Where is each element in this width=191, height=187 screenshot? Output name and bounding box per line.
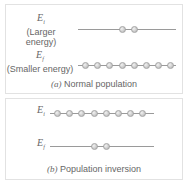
particle xyxy=(106,62,113,69)
lower-energy-level-line xyxy=(50,146,154,147)
particle xyxy=(155,62,162,69)
lower-level-label: Ef (Smaller energy) xyxy=(6,50,74,74)
particle xyxy=(54,110,61,117)
particle xyxy=(91,110,98,117)
particle xyxy=(78,110,85,117)
lower-level-description: (Smaller energy) xyxy=(6,64,74,74)
upper-level-label: Ei (Larger energy) xyxy=(10,13,72,47)
upper-energy-level-line xyxy=(78,29,176,30)
caption-b: (b) Population inversion xyxy=(6,164,182,174)
particle xyxy=(131,62,138,69)
particle xyxy=(143,62,150,69)
particle xyxy=(103,143,110,150)
particle xyxy=(127,110,134,117)
upper-level-description: (Larger energy) xyxy=(10,27,72,47)
particle xyxy=(91,143,98,150)
upper-energy-level-line xyxy=(50,113,154,114)
panel-population-inversion: Ei Ef (b) Population inversion xyxy=(5,98,183,180)
lower-energy-level-line xyxy=(78,65,176,66)
particle xyxy=(82,62,89,69)
particle xyxy=(103,110,110,117)
energy-symbol-ei: Ei xyxy=(32,105,50,119)
particle xyxy=(119,62,126,69)
particle xyxy=(167,62,174,69)
particle xyxy=(66,110,73,117)
particle xyxy=(94,62,101,69)
caption-a: (a) Normal population xyxy=(6,79,182,89)
particle xyxy=(139,110,146,117)
particle xyxy=(115,110,122,117)
energy-symbol-ef: Ef xyxy=(32,138,50,152)
energy-symbol-ei: Ei xyxy=(10,13,72,27)
particle xyxy=(119,26,126,33)
energy-symbol-ef: Ef xyxy=(6,50,74,64)
particle xyxy=(131,26,138,33)
panel-normal-population: Ei (Larger energy) Ef (Smaller energy) (… xyxy=(5,4,183,94)
